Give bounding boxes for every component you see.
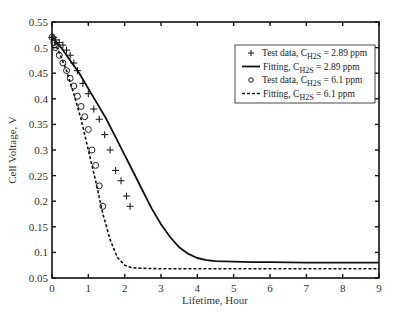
- x-tick-label: 0: [49, 282, 55, 294]
- y-tick-label: 0.4: [34, 93, 48, 105]
- y-tick-label: 0.55: [29, 16, 49, 28]
- y-tick-label: 0.3: [34, 144, 48, 156]
- x-tick-label: 4: [195, 282, 201, 294]
- x-tick-label: 3: [158, 282, 164, 294]
- y-axis-label: Cell Voltage, V: [6, 116, 18, 184]
- x-tick-label: 7: [304, 282, 310, 294]
- legend: Test data, CH2S = 2.89 ppmFitting, CH2S …: [235, 45, 375, 103]
- y-tick-label: 0.05: [29, 272, 49, 284]
- y-tick-label: 0.15: [29, 221, 49, 233]
- x-tick-label: 9: [376, 282, 382, 294]
- x-tick-label: 1: [86, 282, 92, 294]
- x-tick-label: 5: [231, 282, 237, 294]
- x-tick-label: 2: [122, 282, 128, 294]
- y-tick-label: 0.1: [34, 246, 48, 258]
- y-tick-label: 0.35: [29, 118, 49, 130]
- chart: 01234567890.050.10.150.20.250.30.350.40.…: [0, 0, 396, 320]
- y-tick-label: 0.2: [34, 195, 48, 207]
- y-tick-label: 0.25: [29, 170, 49, 182]
- y-tick-label: 0.45: [29, 67, 49, 79]
- x-axis-label: Lifetime, Hour: [182, 294, 248, 306]
- x-tick-label: 6: [267, 282, 273, 294]
- y-tick-label: 0.5: [34, 42, 48, 54]
- series-circle: [49, 34, 106, 209]
- x-tick-label: 8: [340, 282, 346, 294]
